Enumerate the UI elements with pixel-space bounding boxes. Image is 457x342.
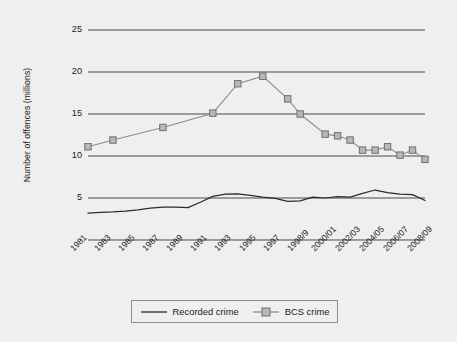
x-axis-tick-labels: 1981198319851987198919911993199519971998… xyxy=(0,244,457,296)
legend-label-recorded-crime: Recorded crime xyxy=(173,306,239,317)
bcs-data-point-marker xyxy=(235,81,241,87)
bcs-data-point-marker xyxy=(85,144,91,150)
chart-legend: Recorded crime BCS crime xyxy=(131,300,338,323)
y-axis-tick-label: 20 xyxy=(56,66,82,76)
bcs-data-point-marker xyxy=(260,73,266,79)
bcs-data-point-marker xyxy=(322,131,328,137)
gridlines-group xyxy=(88,30,425,240)
figure-container: Number of offences (millions) -510152025… xyxy=(0,0,457,330)
bcs-data-point-marker xyxy=(359,147,365,153)
bcs-data-point-marker xyxy=(384,144,390,150)
legend-item-recorded-crime: Recorded crime xyxy=(140,306,239,317)
y-axis-tick-label: 25 xyxy=(56,24,82,34)
bcs-data-point-marker xyxy=(422,156,428,162)
bcs-data-point-marker xyxy=(372,147,378,153)
legend-label-bcs-crime: BCS crime xyxy=(285,306,330,317)
bcs-data-point-marker xyxy=(297,111,303,117)
bcs-crime-markers xyxy=(85,73,428,163)
legend-item-bcs-crime: BCS crime xyxy=(252,306,330,318)
chart-plot-area: Number of offences (millions) -510152025… xyxy=(0,0,457,292)
legend-line-icon xyxy=(140,307,168,317)
bcs-data-point-marker xyxy=(397,152,403,158)
bcs-data-point-marker xyxy=(285,96,291,102)
y-axis-tick-label: 5 xyxy=(56,192,82,202)
y-axis-tick-label: 15 xyxy=(56,108,82,118)
bcs-data-point-marker xyxy=(409,147,415,153)
bcs-data-point-marker xyxy=(347,137,353,143)
bcs-data-point-marker xyxy=(160,124,166,130)
y-axis-tick-label: 10 xyxy=(56,150,82,160)
y-axis-title: Number of offences (millions) xyxy=(22,40,32,210)
bcs-data-point-marker xyxy=(110,137,116,143)
recorded-crime-line xyxy=(88,190,425,213)
legend-line-square-icon xyxy=(252,306,280,318)
bcs-data-point-marker xyxy=(210,110,216,116)
bcs-data-point-marker xyxy=(334,133,340,139)
